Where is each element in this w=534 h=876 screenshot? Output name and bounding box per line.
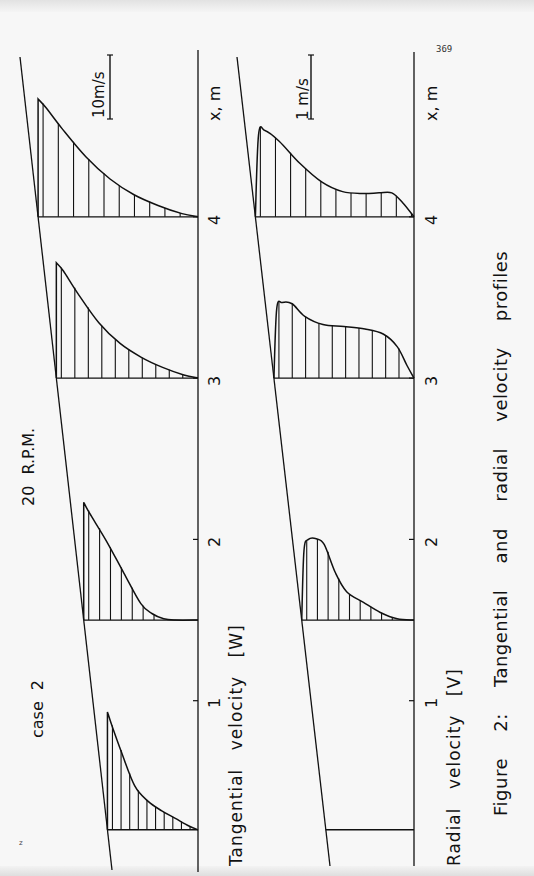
bottom-tick-3: 3	[422, 376, 441, 386]
rpm-label: 20 R.P.M.	[19, 428, 38, 506]
case-label: case 2	[28, 680, 47, 738]
bottom-tick-1: 1	[422, 698, 441, 708]
bottom-tick-2: 2	[422, 537, 441, 547]
top-panel-title: Tangential velocity [W]	[226, 624, 246, 866]
velocity-profile-curve	[56, 263, 198, 378]
top-tick-1: 1	[205, 698, 224, 708]
top-scale-label: 10m/s	[90, 71, 108, 118]
velocity-profile-curve	[255, 127, 414, 217]
top-axis-label: x, m	[205, 86, 224, 121]
velocity-profile-curve	[274, 301, 414, 378]
bottom-scale-label: 1 m/s	[294, 78, 312, 120]
top-tick-2: 2	[205, 537, 224, 547]
velocity-profile-curve	[302, 538, 414, 620]
figure-caption: Figure 2: Tangential and radial velocity…	[490, 251, 511, 816]
top-tick-3: 3	[205, 376, 224, 386]
bottom-axis-label: x, m	[422, 86, 441, 121]
page-number: 369	[436, 44, 452, 54]
bottom-panel-title: Radial velocity [V]	[444, 668, 464, 866]
velocity-profile-curve	[84, 502, 198, 620]
top-tick-4: 4	[205, 215, 224, 225]
corner-mark: z	[19, 839, 23, 847]
velocity-profile-curve	[38, 99, 198, 217]
bottom-tick-4: 4	[422, 215, 441, 225]
